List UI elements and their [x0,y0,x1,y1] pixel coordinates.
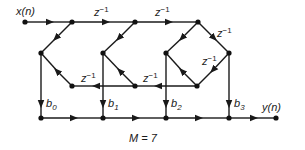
coef-b2: b2 [171,97,182,112]
upper-down-left-edges [41,22,198,53]
delay-label-lower-2: z−1 [142,71,158,84]
output-node [273,115,278,120]
coef-b3: b3 [234,97,245,112]
lattice-diagram: x(n) y(n) z−1 z−1 z−1 z−1 z−1 z−1 b0 b1 … [0,0,305,150]
delay-label-top-2: z−1 [154,5,170,18]
input-label: x(n) [15,5,35,17]
coef-b1: b1 [108,97,119,112]
delay-label-diamond-lower: z−1 [201,54,217,67]
coef-b0: b0 [46,97,57,112]
delay-label-diamond-upper: z−1 [216,26,232,39]
delay-label-lower-1: z−1 [80,71,96,84]
delay-label-top-1: z−1 [93,5,109,18]
input-node [22,19,27,24]
caption: M = 7 [129,132,158,144]
output-label: y(n) [261,101,281,113]
lower-up-left-edges [41,53,197,86]
